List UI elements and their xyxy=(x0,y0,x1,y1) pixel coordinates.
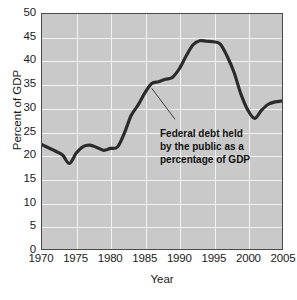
x-axis-tick: 1970 xyxy=(29,253,54,265)
annotation-leader-line xyxy=(152,88,175,119)
y-axis-tick: 15 xyxy=(0,173,36,185)
annotation-line-3: percentage of GDP xyxy=(160,153,280,166)
x-axis-label: Year xyxy=(41,273,283,285)
y-axis-tick: 45 xyxy=(0,31,36,43)
y-axis-tick: 50 xyxy=(0,7,36,19)
x-axis-tick: 2005 xyxy=(271,253,296,265)
x-axis-tick: 1975 xyxy=(63,253,88,265)
y-axis-tick: 35 xyxy=(0,78,36,90)
annotation-line-1: Federal debt held xyxy=(160,127,280,140)
y-axis-tick: 25 xyxy=(0,126,36,138)
series-annotation-label: Federal debt held by the public as a per… xyxy=(160,127,280,167)
annotation-line-2: by the public as a xyxy=(160,140,280,153)
x-axis-tick: 1985 xyxy=(132,253,157,265)
y-axis-tick: 10 xyxy=(0,197,36,209)
y-axis-tick-labels: 05101520253035404550 xyxy=(0,13,36,250)
y-axis-tick: 40 xyxy=(0,55,36,67)
y-axis-tick: 30 xyxy=(0,102,36,114)
chart-figure: Percent of GDP 05101520253035404550 Fede… xyxy=(0,0,297,300)
y-axis-tick: 5 xyxy=(0,221,36,233)
y-axis-tick: 20 xyxy=(0,149,36,161)
x-axis-tick: 1980 xyxy=(98,253,123,265)
x-axis-tick: 1995 xyxy=(201,253,226,265)
x-axis-tick-labels: 19701975198019851990199520002005 xyxy=(41,253,283,269)
x-axis-tick: 2000 xyxy=(236,253,261,265)
x-axis-tick: 1990 xyxy=(167,253,192,265)
